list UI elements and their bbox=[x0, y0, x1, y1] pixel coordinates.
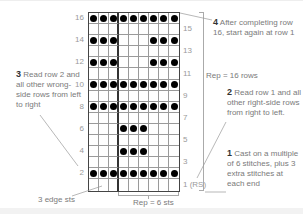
leader-lines bbox=[0, 0, 303, 214]
bottom-divider bbox=[0, 208, 303, 214]
